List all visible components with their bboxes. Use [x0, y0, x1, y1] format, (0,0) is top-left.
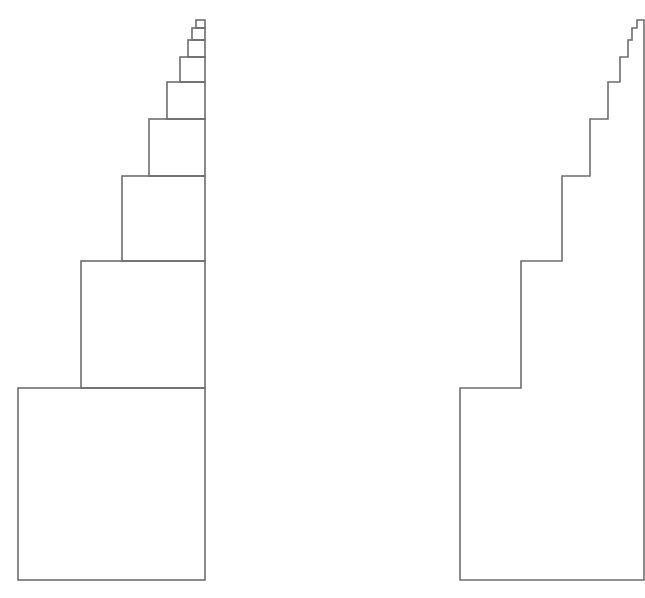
- square-7: [188, 40, 205, 57]
- square-5: [167, 82, 205, 119]
- square-1: [18, 388, 205, 580]
- square-3: [122, 176, 205, 261]
- square-2: [81, 261, 205, 388]
- staircase-outline: [460, 20, 644, 580]
- nested-squares-diagram: [18, 20, 205, 580]
- square-6: [180, 57, 205, 82]
- staircase-figure: [0, 0, 645, 598]
- square-8: [192, 28, 205, 40]
- staircase-outline-diagram: [460, 20, 644, 580]
- square-4: [149, 119, 205, 176]
- square-9: [196, 20, 205, 28]
